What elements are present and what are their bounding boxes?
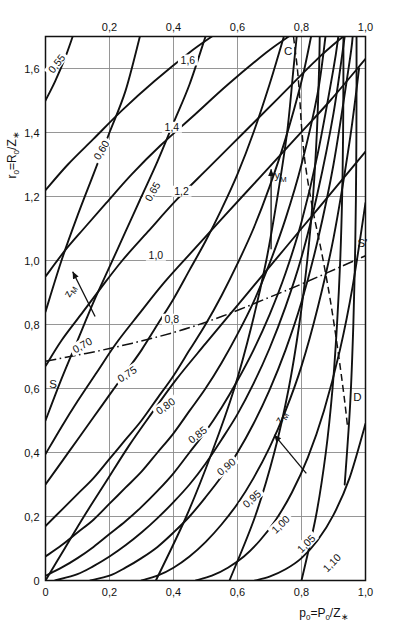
y-tick-label: 0,6 [24, 383, 39, 395]
y-tick-label: 0,2 [24, 511, 39, 523]
y-tick-label: 1,0 [24, 255, 39, 267]
point-S-prime: S' [358, 237, 368, 249]
point-C: C [284, 45, 292, 57]
curve-label-0,8: 0,8 [165, 313, 180, 325]
x-tick-label-top: 0,8 [294, 21, 309, 33]
nomogram-chart: 0,550,600,650,700,750,800,850,900,951,00… [0, 0, 393, 635]
chart-container: 0,550,600,650,700,750,800,850,900,951,00… [0, 0, 393, 635]
x-tick-label: 0,8 [294, 586, 309, 598]
x-tick-label-top: 0,6 [230, 21, 245, 33]
curve-label-1,6: 1,6 [181, 54, 196, 66]
point-D: D [353, 391, 361, 403]
point-S: S [49, 378, 57, 390]
curve-label-1,2: 1,2 [174, 185, 189, 197]
x-tick-label-top: 1,0 [358, 21, 373, 33]
y-tick-label: 0,4 [24, 447, 39, 459]
y-tick-label: 0,8 [24, 319, 39, 331]
curve-label-1,0: 1,0 [149, 249, 164, 261]
x-tick-label: 0,4 [166, 586, 181, 598]
x-tick-label-top: 0,4 [166, 21, 181, 33]
y-tick-label: 1,4 [24, 127, 39, 139]
x-tick-label: 0 [42, 586, 48, 598]
y-tick-label: 1,6 [24, 63, 39, 75]
x-tick-label-top: 0,2 [102, 21, 117, 33]
x-tick-label: 0,6 [230, 586, 245, 598]
y-tick-label: 0 [33, 575, 39, 587]
curve-label-1,4: 1,4 [165, 121, 180, 133]
x-tick-label: 0,2 [102, 586, 117, 598]
y-tick-label: 1,2 [24, 191, 39, 203]
x-tick-label: 1,0 [358, 586, 373, 598]
